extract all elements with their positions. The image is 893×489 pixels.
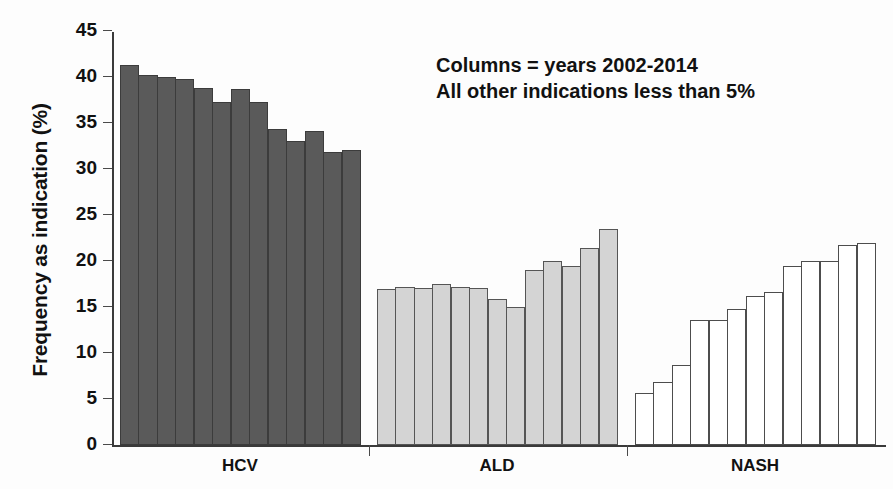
bar-ald-2007: [469, 288, 488, 445]
bar-nash-2007: [727, 309, 746, 445]
bar-hcv-2003: [138, 75, 157, 445]
y-axis-tick-label: 0: [86, 433, 97, 455]
bar-ald-2010: [525, 270, 544, 445]
bar-nash-2014: [857, 243, 876, 445]
bar-nash-2004: [672, 365, 691, 445]
y-axis-tick: 40: [103, 76, 112, 77]
y-axis-tick: 45: [103, 30, 112, 31]
bar-hcv-2008: [231, 89, 250, 445]
y-axis-title: Frequency as indication (%): [28, 30, 52, 450]
bar-ald-2011: [543, 261, 562, 445]
bar-hcv-2010: [268, 129, 287, 445]
bar-hcv-2006: [194, 88, 213, 445]
bar-ald-2003: [395, 287, 414, 445]
y-axis-tick-label: 45: [76, 19, 97, 41]
x-axis-group-separator: [627, 445, 628, 456]
bar-nash-2009: [764, 292, 783, 445]
bar-hcv-2007: [212, 102, 231, 445]
figure-caption-remnant: [0, 468, 893, 489]
y-axis-tick: 0: [103, 444, 112, 445]
y-axis-tick: 5: [103, 398, 112, 399]
bar-nash-2002: [635, 393, 654, 445]
bar-nash-2011: [801, 261, 820, 445]
bar-hcv-2009: [249, 102, 268, 445]
y-axis-tick: 35: [103, 122, 112, 123]
bar-ald-2008: [488, 299, 507, 445]
bar-hcv-2002: [120, 65, 139, 445]
bar-nash-2003: [653, 382, 672, 445]
y-axis-tick-label: 40: [76, 65, 97, 87]
y-axis-tick: 15: [103, 306, 112, 307]
y-axis-tick-label: 35: [76, 111, 97, 133]
bar-group-hcv: [120, 31, 360, 445]
bar-nash-2012: [820, 261, 839, 445]
y-axis-tick-label: 25: [76, 203, 97, 225]
bar-chart-figure: Frequency as indication (%) 051015202530…: [0, 0, 893, 489]
y-axis-tick-label: 30: [76, 157, 97, 179]
bar-ald-2004: [414, 288, 433, 445]
bar-nash-2013: [838, 245, 857, 445]
y-axis-tick: 20: [103, 260, 112, 261]
bar-hcv-2004: [157, 77, 176, 445]
y-axis-tick-label: 5: [86, 387, 97, 409]
y-axis-tick: 25: [103, 214, 112, 215]
bar-hcv-2014: [342, 150, 361, 445]
bar-nash-2008: [746, 296, 765, 445]
bar-ald-2006: [451, 287, 470, 445]
bar-hcv-2005: [175, 79, 194, 445]
y-axis-tick-label: 10: [76, 341, 97, 363]
y-axis-line: [112, 32, 114, 446]
bar-ald-2013: [580, 248, 599, 445]
bar-nash-2005: [690, 320, 709, 445]
bar-ald-2014: [599, 229, 618, 445]
y-axis-tick-label: 15: [76, 295, 97, 317]
bar-nash-2010: [783, 266, 802, 445]
y-axis-tick-label: 20: [76, 249, 97, 271]
bar-hcv-2012: [305, 131, 324, 445]
bar-hcv-2013: [323, 152, 342, 445]
bar-ald-2002: [377, 289, 396, 445]
bar-ald-2009: [506, 307, 525, 445]
x-axis-group-separator: [369, 445, 370, 456]
bar-hcv-2011: [286, 141, 305, 445]
x-axis-line: [112, 445, 886, 447]
bar-ald-2012: [562, 266, 581, 445]
annotation-line-1: Columns = years 2002-2014: [436, 52, 755, 78]
bar-ald-2005: [432, 284, 451, 445]
chart-annotation: Columns = years 2002-2014 All other indi…: [436, 52, 755, 105]
annotation-line-2: All other indications less than 5%: [436, 78, 755, 104]
y-axis-tick: 30: [103, 168, 112, 169]
bar-nash-2006: [709, 320, 728, 445]
y-axis-tick: 10: [103, 352, 112, 353]
